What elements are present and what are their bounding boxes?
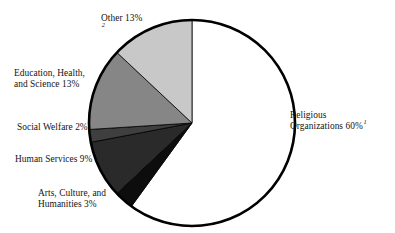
slice-label-religious-organizations: Religious Organizations 60%1 [290,110,366,133]
slice-label-education-health-science: Education, Health, and Science 13% [14,68,85,91]
slice-label-education-line-1: Education, Health, [14,68,85,79]
slice-label-religious-line-2: Organizations 60% [290,121,363,131]
footnote-marker-other: 2 [102,21,105,28]
slice-label-education-line-2: and Science 13% [14,79,85,90]
slice-label-human-services: Human Services 9% [15,154,92,165]
pie-chart-figure: Other 13% 2 Education, Health, and Scien… [0,0,395,233]
slice-label-other: Other 13% 2 [101,13,142,36]
slice-label-arts-line-1: Arts, Culture, and [38,188,106,199]
slice-label-religious-line-2-wrap: Organizations 60%1 [290,121,366,132]
slice-label-arts-culture-humanities: Arts, Culture, and Humanities 3% [38,188,106,211]
footnote-marker-religious: 1 [364,118,367,125]
slice-label-human-services-text: Human Services 9% [15,154,92,165]
slice-label-religious-line-1: Religious [290,110,366,121]
slice-label-social-welfare-text: Social Welfare 2% [17,122,88,133]
slice-label-social-welfare: Social Welfare 2% [17,122,88,133]
slice-label-other-text: Other 13% [101,13,142,24]
slice-label-arts-line-2: Humanities 3% [38,199,106,210]
